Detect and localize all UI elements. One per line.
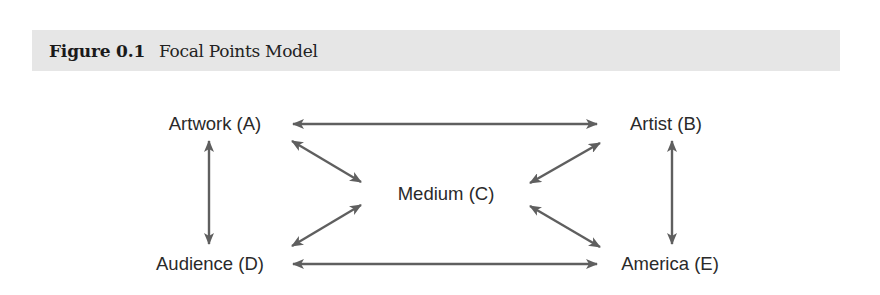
node-artist: Artist (B) <box>630 115 702 134</box>
node-audience: Audience (D) <box>156 255 264 274</box>
arrow-america-medium <box>530 206 600 247</box>
arrow-artist-medium <box>530 143 600 183</box>
node-america: America (E) <box>621 255 719 274</box>
focal-points-diagram <box>0 0 880 295</box>
arrow-artwork-medium <box>292 141 361 182</box>
node-artwork: Artwork (A) <box>169 115 262 134</box>
arrow-audience-medium <box>292 205 361 246</box>
node-medium: Medium (C) <box>398 185 495 204</box>
